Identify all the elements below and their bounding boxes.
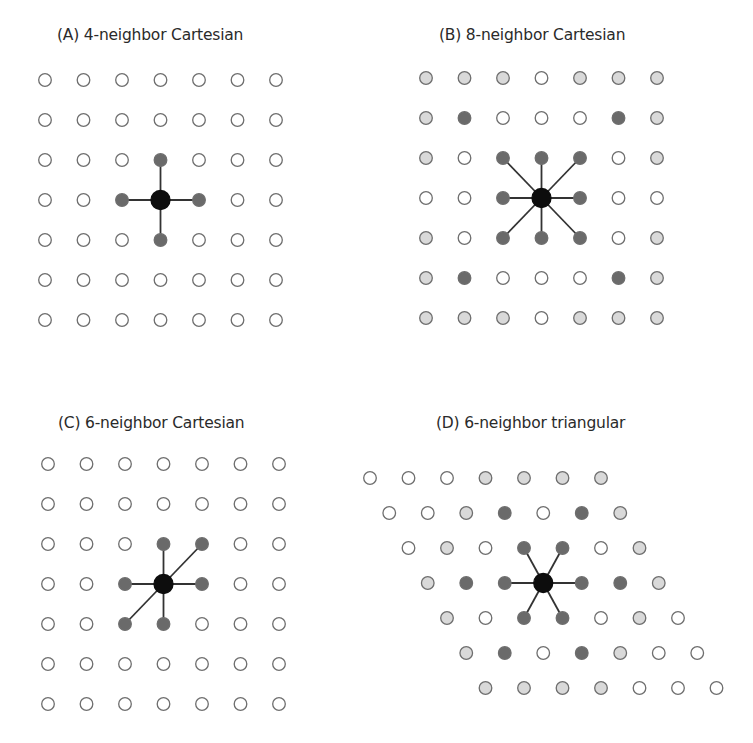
lattice-node [157,458,170,471]
lattice-node [364,472,377,485]
lattice-node [80,698,93,711]
lattice-node [116,154,129,167]
lattice-node [270,234,283,247]
lattice-node [39,154,52,167]
lattice-node [691,647,704,660]
lattice-node [234,578,247,591]
lattice-node [42,578,55,591]
lattice-node-second-neighbor [420,232,433,245]
lattice-node-second-neighbor [612,312,625,325]
lattice-node-neighbor [154,234,167,247]
lattice-node-neighbor [612,112,625,125]
lattice-node-neighbor [614,577,627,590]
lattice-node [273,458,286,471]
lattice-node [39,314,52,327]
lattice-node-second-neighbor [651,272,664,285]
lattice-node [595,542,608,555]
lattice-node-second-neighbor [497,312,510,325]
lattice-node [193,274,206,287]
lattice-node [231,234,244,247]
lattice-node-second-neighbor [574,312,587,325]
lattice-node-neighbor [154,154,167,167]
lattice-node-neighbor [574,152,587,165]
lattice-node-second-neighbor [595,682,608,695]
lattice-node [479,542,492,555]
lattice-node [234,538,247,551]
lattice-node [193,234,206,247]
lattice-node [154,114,167,127]
lattice-node [154,274,167,287]
lattice-node-neighbor [196,538,209,551]
lattice-node [633,682,646,695]
lattice-node-neighbor [575,647,588,660]
lattice-node-second-neighbor [652,577,665,590]
lattice-node-neighbor [575,577,588,590]
lattice-diagram [0,0,753,743]
lattice-node [535,272,548,285]
lattice-node [39,114,52,127]
lattice-node [234,498,247,511]
lattice-node-second-neighbor [651,72,664,85]
lattice-node-second-neighbor [518,472,531,485]
lattice-node [77,74,90,87]
lattice-node [270,314,283,327]
lattice-node-second-neighbor [441,542,454,555]
lattice-node [612,232,625,245]
lattice-node [77,314,90,327]
lattice-node [231,194,244,207]
lattice-node-neighbor [458,272,471,285]
lattice-node-second-neighbor [497,72,510,85]
lattice-node-neighbor [535,232,548,245]
lattice-node [193,314,206,327]
lattice-node [116,74,129,87]
lattice-node-second-neighbor [556,472,569,485]
lattice-node-neighbor [193,194,206,207]
lattice-node [497,272,510,285]
lattice-node [77,114,90,127]
lattice-node-second-neighbor [420,272,433,285]
lattice-node-second-neighbor [421,577,434,590]
lattice-node-second-neighbor [460,647,473,660]
lattice-node-second-neighbor [458,312,471,325]
lattice-node [116,234,129,247]
lattice-node [231,74,244,87]
lattice-node-neighbor [574,232,587,245]
lattice-node-neighbor [574,192,587,205]
lattice-node [193,74,206,87]
lattice-node [231,114,244,127]
lattice-node [77,154,90,167]
lattice-node-second-neighbor [651,312,664,325]
panel-d [364,472,723,695]
lattice-node [77,194,90,207]
lattice-node-neighbor [460,577,473,590]
lattice-node-neighbor [119,578,132,591]
lattice-node-second-neighbor [595,472,608,485]
lattice-node [234,458,247,471]
lattice-node-second-neighbor [574,72,587,85]
lattice-node [193,114,206,127]
lattice-node [39,274,52,287]
lattice-node-second-neighbor [458,72,471,85]
lattice-node [458,192,471,205]
lattice-node-neighbor [157,538,170,551]
lattice-node [672,682,685,695]
lattice-node [574,272,587,285]
lattice-node [535,112,548,125]
lattice-node-neighbor [458,112,471,125]
lattice-node [231,274,244,287]
lattice-node-second-neighbor [651,112,664,125]
lattice-node [196,698,209,711]
lattice-node [273,538,286,551]
lattice-node [270,154,283,167]
lattice-node [157,698,170,711]
lattice-node [193,154,206,167]
lattice-node [270,194,283,207]
lattice-node-neighbor [535,152,548,165]
lattice-node [42,658,55,671]
lattice-node-second-neighbor [420,72,433,85]
lattice-node [479,612,492,625]
lattice-node [119,458,132,471]
lattice-node [154,314,167,327]
lattice-node-neighbor [518,542,531,555]
lattice-node-center [151,191,170,210]
